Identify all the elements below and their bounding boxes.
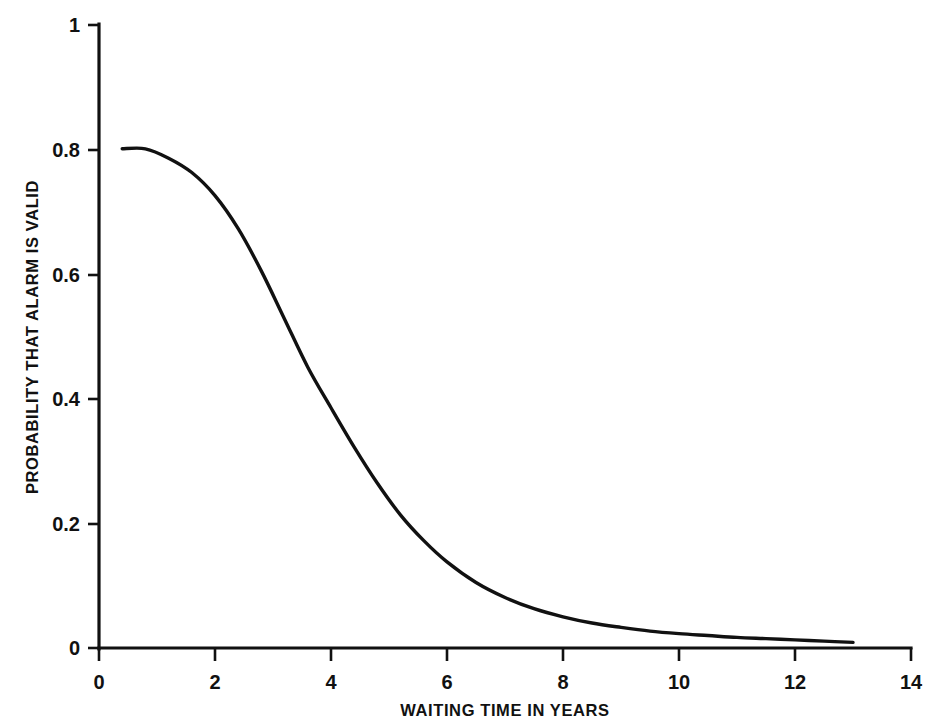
x-axis-ticks (99, 648, 911, 661)
y-tick-label-0.4: 0.4 (52, 388, 81, 410)
data-series-line (122, 148, 853, 642)
x-tick-label-4: 4 (325, 671, 337, 693)
x-tick-label-2: 2 (209, 671, 220, 693)
chart-figure: 1 0.8 0.6 0.4 0.2 0 0 2 4 6 8 10 12 14 W… (0, 0, 937, 726)
y-tick-label-0.8: 0.8 (52, 139, 80, 161)
y-axis-ticks (88, 25, 99, 648)
x-tick-label-0: 0 (93, 671, 104, 693)
chart-canvas: 1 0.8 0.6 0.4 0.2 0 0 2 4 6 8 10 12 14 W… (0, 0, 937, 726)
y-tick-label-0.6: 0.6 (52, 264, 80, 286)
x-axis-title: WAITING TIME IN YEARS (400, 701, 609, 719)
x-tick-label-12: 12 (784, 671, 806, 693)
x-tick-label-10: 10 (668, 671, 690, 693)
y-tick-label-0.2: 0.2 (52, 513, 80, 535)
x-tick-label-6: 6 (441, 671, 452, 693)
x-tick-label-8: 8 (557, 671, 568, 693)
x-tick-labels: 0 2 4 6 8 10 12 14 (93, 671, 923, 693)
x-tick-label-14: 14 (900, 671, 923, 693)
y-axis-title: PROBABILITY THAT ALARM IS VALID (23, 180, 41, 494)
y-tick-labels: 1 0.8 0.6 0.4 0.2 0 (52, 14, 81, 659)
y-tick-label-1: 1 (69, 14, 80, 36)
y-tick-label-0: 0 (69, 637, 80, 659)
